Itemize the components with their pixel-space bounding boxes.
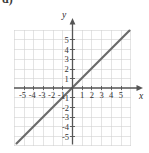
y-tick-label--3: -3 [62,113,69,122]
y-tick-label--2: -2 [62,104,69,113]
y-tick-label-1: 1 [65,75,69,84]
x-tick-label-2: 2 [90,91,94,100]
x-tick-label--3: -3 [38,91,45,100]
graph-figure: d) [0,0,149,153]
y-tick-label-4: 4 [65,46,69,55]
y-tick-label-3: 3 [65,55,69,64]
x-tick-label--5: -5 [19,91,26,100]
y-tick-label--5: -5 [62,133,69,142]
y-tick-label-5: 5 [65,36,69,45]
coordinate-plane [0,0,149,153]
x-tick-label-1: 1 [80,91,84,100]
x-axis-label: x [139,92,143,102]
y-axis-arrowhead [70,18,76,25]
y-tick-label--1: -1 [62,94,69,103]
x-tick-label--4: -4 [29,91,36,100]
x-tick-label-4: 4 [109,91,113,100]
x-tick-label--2: -2 [48,91,55,100]
y-tick-label-2: 2 [65,65,69,74]
x-tick-label-3: 3 [99,91,103,100]
y-axis-label: y [62,11,66,21]
x-tick-label-5: 5 [119,91,123,100]
coordinate-plane-svg [0,0,149,153]
y-tick-label--4: -4 [62,123,69,132]
